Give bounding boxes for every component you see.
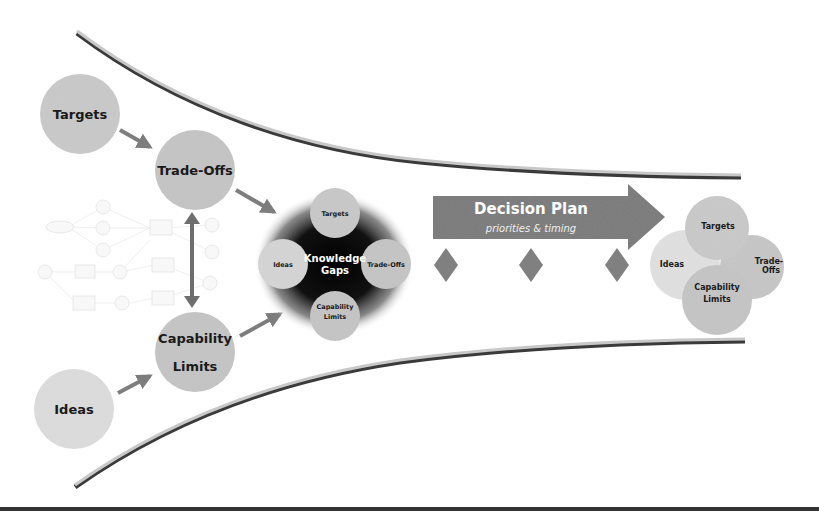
- outcome-capability-label-line2: Limits: [703, 295, 731, 304]
- arrow-ideas-to-capability: [118, 376, 150, 393]
- input-ideas-label: Ideas: [54, 402, 94, 417]
- bottom-divider: [0, 507, 819, 511]
- arrow-capability-to-gaps: [240, 314, 280, 336]
- decision-plan-arrow: Decision Plan priorities & timing: [433, 184, 665, 250]
- input-trade-offs: Trade-Offs: [155, 130, 235, 210]
- arrow-targets-to-tradeoffs: [120, 130, 150, 147]
- milestone-diamond-2: [519, 248, 543, 282]
- gap-targets-label: Targets: [321, 210, 348, 218]
- milestone-diamond-3: [605, 248, 629, 282]
- gap-ideas-label: Ideas: [273, 261, 293, 269]
- input-ideas: Ideas: [34, 369, 114, 449]
- input-targets-label: Targets: [53, 107, 108, 122]
- outcome-ideas-label: Ideas: [660, 260, 685, 269]
- knowledge-gaps-cluster: Targets Ideas Trade-Offs Capability Limi…: [254, 188, 414, 341]
- input-trade-offs-label: Trade-Offs: [157, 163, 233, 178]
- milestone-diamond-1: [434, 248, 458, 282]
- decision-funnel-diagram: Targets Trade-Offs Capability Limits Ide…: [0, 0, 819, 518]
- outcome-targets-label: Targets: [701, 222, 735, 231]
- arrow-tradeoffs-to-gaps: [236, 190, 274, 212]
- knowledge-gaps-title-line1: Knowledge: [304, 253, 367, 264]
- input-capability-limits: Capability Limits: [155, 312, 235, 392]
- input-capability-label-line2: Limits: [173, 359, 218, 374]
- input-capability-label-line1: Capability: [158, 331, 232, 346]
- gap-capability-label-line2: Limits: [324, 313, 346, 321]
- outcome-tradeoffs-label-line1: Trade-: [755, 257, 783, 266]
- decision-plan-subtitle: priorities & timing: [485, 223, 576, 234]
- outcome-cluster: Targets Ideas Trade- Offs Capability Lim…: [650, 196, 784, 335]
- gap-tradeoffs-label: Trade-Offs: [367, 261, 405, 269]
- gap-capability-label-line1: Capability: [317, 303, 355, 311]
- decision-plan-title: Decision Plan: [474, 200, 588, 218]
- knowledge-gaps-title-line2: Gaps: [321, 265, 349, 276]
- milestone-diamonds: [434, 248, 629, 282]
- input-targets: Targets: [40, 74, 120, 154]
- outcome-tradeoffs-label-line2: Offs: [762, 266, 780, 275]
- outcome-capability-label-line1: Capability: [694, 283, 740, 292]
